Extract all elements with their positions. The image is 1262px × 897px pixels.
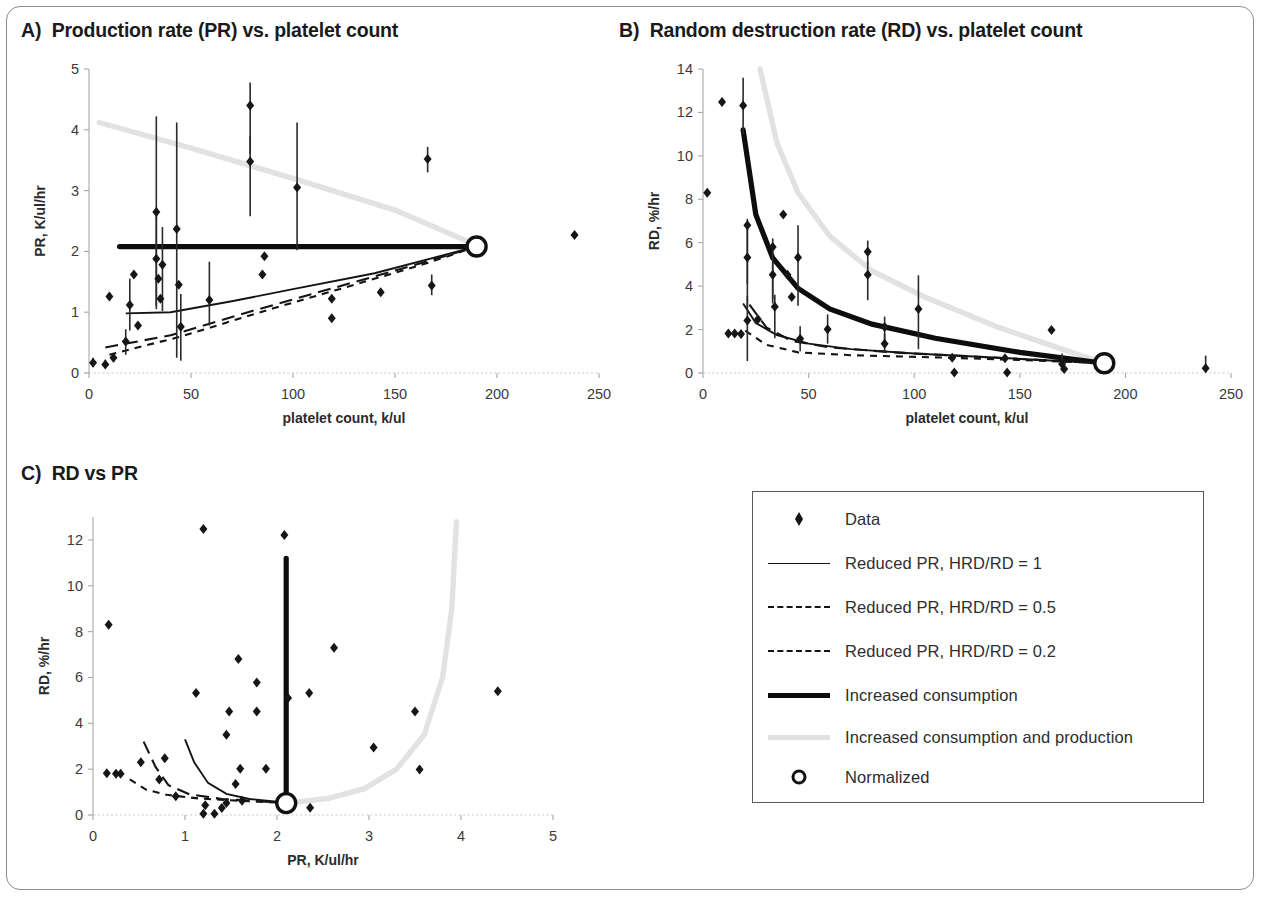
data-point [236,764,244,774]
data-point [881,322,889,332]
data-point [103,768,111,778]
legend-label-reduced-pr-05: Reduced PR, HRD/RD = 0.5 [845,598,1056,617]
data-point [253,706,261,716]
panel-b-title: B) Random destruction rate (RD) vs. plat… [619,19,1082,42]
panel-c-svg: 024681012012345PR, K/ul/hrRD, %/hr [15,495,575,891]
data-point [201,800,209,810]
panel-a-plot: 012345050100150200250platelet count, k/u… [15,51,615,451]
y-tick-label: 1 [71,304,79,320]
short-dashed-line-icon [753,650,845,652]
y-tick-label: 10 [677,148,693,164]
data-point [234,654,242,664]
data-point [173,224,181,234]
data-point [788,292,796,302]
data-point [377,287,385,297]
y-tick-label: 2 [71,243,79,259]
x-tick-label: 200 [485,386,509,402]
y-axis-label: RD, %/hr [646,191,662,250]
x-tick-label: 250 [587,386,611,402]
legend-label-increased-consumption: Increased consumption [845,686,1018,705]
y-tick-label: 12 [677,104,693,120]
thick-black-line-icon [753,693,845,698]
y-tick-label: 4 [75,715,83,731]
y-axis-label: RD, %/hr [36,636,52,695]
legend: Data Reduced PR, HRD/RD = 1 Reduced PR, … [752,491,1204,803]
data-point [1047,325,1055,335]
model-curve [185,739,286,803]
legend-item-data: Data [753,498,1203,540]
open-circle-icon [753,767,845,787]
x-tick-label: 2 [273,828,281,844]
data-point [222,730,230,740]
x-tick-label: 100 [281,386,305,402]
y-tick-label: 3 [71,183,79,199]
x-axis-label: platelet count, k/ul [906,410,1029,426]
y-tick-label: 12 [67,532,83,548]
panel-c-plot: 024681012012345PR, K/ul/hrRD, %/hr [15,495,575,891]
thick-light-line-icon [753,735,845,740]
panel-b: B) Random destruction rate (RD) vs. plat… [619,19,1082,42]
y-tick-label: 2 [75,761,83,777]
x-tick-label: 4 [457,828,465,844]
x-tick-label: 5 [549,828,557,844]
panel-b-tag: B) [619,19,639,41]
x-axis-label: platelet count, k/ul [283,410,406,426]
panel-c-title: C) RD vs PR [21,462,138,485]
legend-label-reduced-pr-02: Reduced PR, HRD/RD = 0.2 [845,642,1056,661]
data-point [177,322,185,332]
data-point [199,809,207,819]
model-curve [144,742,287,803]
normalized-marker [1095,354,1114,373]
y-tick-label: 0 [685,365,693,381]
panel-c-tag: C) [21,462,41,484]
normalized-marker [277,794,296,813]
x-tick-label: 50 [183,386,199,402]
panel-b-plot: 02468101214050100150200250platelet count… [623,51,1251,451]
data-point [134,321,142,331]
data-point [89,358,97,368]
y-tick-label: 8 [685,191,693,207]
data-point [122,336,130,346]
data-point [494,686,502,696]
x-tick-label: 200 [1113,386,1137,402]
long-dashed-line-icon [753,606,845,608]
data-point [260,251,268,261]
data-point [205,295,213,305]
data-point [262,764,270,774]
data-point [794,252,802,262]
data-point [258,270,266,280]
data-point [743,315,751,325]
x-tick-label: 50 [801,386,817,402]
data-point [210,809,218,819]
normalized-marker [467,237,486,256]
data-point [101,359,109,369]
data-point [126,300,134,310]
y-tick-label: 6 [75,669,83,685]
y-tick-label: 6 [685,235,693,251]
legend-label-normalized: Normalized [845,768,929,787]
legend-item-reduced-pr-1: Reduced PR, HRD/RD = 1 [753,542,1203,584]
y-tick-label: 5 [71,61,79,77]
data-point [416,765,424,775]
data-point [1003,368,1011,378]
x-tick-label: 0 [89,828,97,844]
data-point [172,791,180,801]
data-point [769,270,777,280]
data-point [192,688,200,698]
panel-a-title: A) Production rate (PR) vs. platelet cou… [21,19,398,42]
data-point [130,270,138,280]
data-point [137,757,145,767]
data-point [105,291,113,301]
data-point [948,353,956,363]
data-point [914,304,922,314]
legend-label-reduced-pr-1: Reduced PR, HRD/RD = 1 [845,554,1042,573]
data-point [152,207,160,217]
x-tick-label: 150 [1008,386,1032,402]
data-point [743,252,751,262]
legend-label-data: Data [845,510,880,529]
data-point [737,329,745,339]
data-point [950,368,958,378]
x-tick-label: 0 [85,386,93,402]
panel-a-tag: A) [21,19,41,41]
data-point [152,254,160,264]
